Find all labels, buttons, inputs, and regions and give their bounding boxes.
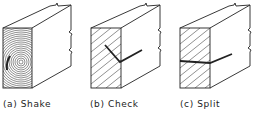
panel-a-shake-block [0, 3, 72, 98]
side-face [32, 5, 72, 88]
end-grain-face [180, 28, 210, 88]
top-face [3, 3, 71, 28]
panel-a-caption: (a) Shake [3, 99, 51, 109]
side-face [210, 5, 251, 88]
growth-rings [0, 26, 57, 98]
panel-c-caption: (c) Split [180, 99, 220, 109]
top-face [91, 3, 160, 28]
check-crack [105, 45, 142, 62]
side-face [121, 5, 161, 88]
panel-b-caption: (b) Check [90, 99, 139, 109]
top-face [180, 3, 250, 28]
grain-hatching [180, 28, 210, 88]
panel-b-check-block [91, 3, 161, 88]
panel-c-split-block [180, 3, 251, 88]
